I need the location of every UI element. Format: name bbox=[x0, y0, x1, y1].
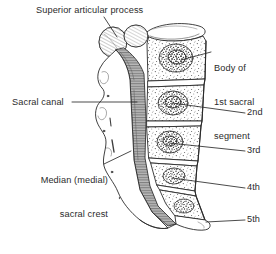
label-body-1st-sacral-segment-line1: Body of bbox=[214, 63, 254, 74]
label-segment-4th: 4th bbox=[247, 182, 260, 193]
label-segment-2nd: 2nd bbox=[247, 107, 263, 118]
label-body-1st-sacral-segment-line3: segment bbox=[214, 131, 254, 142]
s4-trabecular-core bbox=[163, 168, 185, 184]
sacrum-outline bbox=[96, 24, 211, 231]
s3-trabecular-core bbox=[157, 131, 183, 153]
label-segment-5th: 5th bbox=[247, 214, 260, 225]
leader-5th bbox=[206, 220, 245, 222]
label-median-sacral-crest: Median (medial) sacral crest bbox=[4, 152, 108, 243]
label-superior-articular-process: Superior articular process bbox=[36, 5, 143, 16]
label-segment-3rd: 3rd bbox=[247, 145, 261, 156]
sacral-segment-bodies bbox=[147, 36, 206, 220]
s5-trabecular-core bbox=[174, 199, 194, 213]
label-median-sacral-crest-line1: Median (medial) bbox=[4, 175, 108, 186]
figure-canvas: Superior articular process Body of 1st s… bbox=[0, 0, 276, 254]
label-median-sacral-crest-line2: sacral crest bbox=[4, 209, 108, 220]
label-sacral-canal: Sacral canal bbox=[12, 97, 64, 108]
